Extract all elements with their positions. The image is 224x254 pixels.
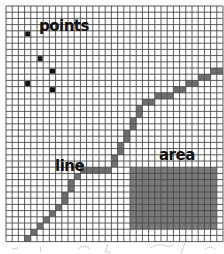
line-cell [111,161,117,167]
point-marker [50,87,55,92]
line-cell [68,180,74,186]
line-cell [130,124,136,130]
line-cell [124,130,130,136]
caption-scribble [0,240,224,254]
line-cell [43,217,49,223]
line-cell [180,87,186,93]
line-cell [118,149,124,155]
scribble-mark [205,247,215,249]
line-cell [198,74,204,80]
line-cell [136,105,142,111]
line-cell [155,93,161,99]
scribble-mark [78,246,90,249]
line-cell [111,155,117,161]
line-cell [93,167,99,173]
line-cell [192,80,198,86]
label-line: line [55,159,84,174]
line-cell [186,80,192,86]
line-cell [173,87,179,93]
line-cell [217,68,223,74]
line-cell [204,74,210,80]
scribble-mark [150,244,174,248]
line-cell [105,167,111,173]
scribble-mark [105,244,111,252]
line-cell [31,229,37,235]
line-cell [99,167,105,173]
label-points: points [39,19,89,34]
scribble-mark [181,243,185,253]
line-cell [136,111,142,117]
grid-diagram [0,0,224,254]
line-cell [62,198,68,204]
line-cell [37,223,43,229]
line-cell [56,204,62,210]
scribble-mark [40,246,41,252]
line-cell [49,211,55,217]
line-cell [167,93,173,99]
line-cell [62,192,68,198]
line-cell [124,136,130,142]
label-area: area [159,148,195,163]
point-marker [38,56,43,61]
line-cell [87,167,93,173]
point-marker [25,31,30,36]
point-marker [25,81,30,86]
line-cell [211,68,217,74]
line-cell [161,93,167,99]
line-cell [149,99,155,105]
point-marker [50,69,55,74]
line-cell [68,186,74,192]
scribble-mark [12,248,18,249]
line-cell [142,99,148,105]
line-cell [130,118,136,124]
line-cell [118,142,124,148]
